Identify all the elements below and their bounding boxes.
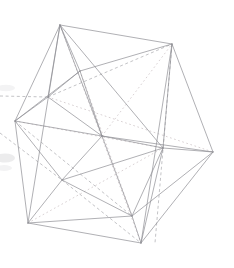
- edge-v6-v11: [48, 71, 80, 97]
- edge-v6-v7: [80, 71, 102, 136]
- edge-v1-v3: [172, 44, 213, 152]
- edge-v4-v10: [28, 216, 132, 223]
- edge-v4-v9: [28, 180, 62, 223]
- edge-v2-v9: [15, 121, 62, 180]
- smudge-upper-left: [0, 85, 15, 91]
- smudge-mid-left: [0, 154, 15, 163]
- polyhedron-wireframe-svg: [0, 0, 234, 268]
- dashed-edge-offscreen-upperbackleft: [0, 96, 48, 97]
- edge-v2-v4: [15, 121, 28, 223]
- edge-v1-v5: [141, 44, 172, 243]
- edge-v0-v8: [60, 25, 163, 148]
- edge-v0-v7: [60, 25, 102, 136]
- smudge-lower-left: [0, 165, 12, 171]
- dotted-edge-bottomleft-innerright: [28, 148, 163, 223]
- edge-v3-v10: [132, 152, 213, 216]
- edge-v0-v6: [60, 25, 80, 71]
- edge-v1-v8: [163, 44, 172, 148]
- edge-v5-v10: [132, 216, 141, 243]
- paper-smudge-group: [0, 85, 15, 171]
- dotted-edge-upperbackleft-right: [48, 97, 213, 152]
- edge-v11-v7: [48, 97, 102, 136]
- edge-v1-v6: [80, 44, 172, 71]
- wireframe-figure-canvas: [0, 0, 234, 268]
- edge-v9-v10: [62, 180, 132, 216]
- edge-v0-v1: [60, 25, 172, 44]
- edge-v7-v8: [102, 136, 163, 148]
- dashed-edge-upperbackleft-upperright: [48, 44, 172, 97]
- edge-v4-v5: [28, 223, 141, 243]
- edge-v0-v2: [15, 25, 60, 121]
- edge-v8-v10: [132, 148, 163, 216]
- edge-v2-v11: [15, 97, 48, 121]
- solid-edges-group: [15, 25, 213, 243]
- dashed-edges-group: [0, 44, 172, 243]
- dotted-edge-innercenter-upperright: [102, 44, 172, 136]
- edge-v8-v9: [62, 148, 163, 180]
- edge-v2-v7: [15, 121, 102, 136]
